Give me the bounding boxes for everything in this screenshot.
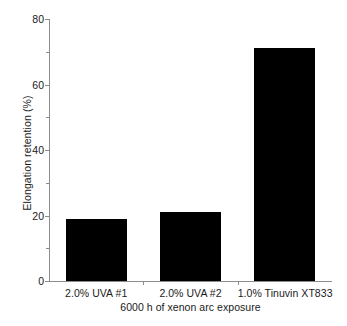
y-minor-tick-mark xyxy=(46,183,49,184)
y-tick-mark xyxy=(45,150,49,151)
bar-chart-figure: Elongation retention (%) 020406080 2.0% … xyxy=(0,0,347,326)
y-tick-label: 80 xyxy=(32,14,44,25)
x-tick-label: 1.0% Tinuvin XT833 xyxy=(238,287,332,300)
x-tick-mark xyxy=(143,281,144,285)
y-axis-line xyxy=(49,19,50,281)
y-minor-tick-mark xyxy=(46,117,49,118)
plot-area: 020406080 2.0% UVA #12.0% UVA #21.0% Tin… xyxy=(49,19,332,281)
y-tick-label: 60 xyxy=(32,79,44,90)
bar xyxy=(160,212,221,281)
y-tick-mark xyxy=(45,19,49,20)
x-tick-label: 2.0% UVA #2 xyxy=(143,287,237,300)
x-tick-mark xyxy=(238,281,239,285)
bar xyxy=(254,48,315,281)
y-minor-tick-mark xyxy=(46,52,49,53)
y-tick-label: 20 xyxy=(32,210,44,221)
x-tick-label: 2.0% UVA #1 xyxy=(49,287,143,300)
x-axis-title: 6000 h of xenon arc exposure xyxy=(49,301,332,314)
y-minor-tick-mark xyxy=(46,248,49,249)
y-tick-label: 40 xyxy=(32,145,44,156)
x-axis-line xyxy=(49,281,332,282)
y-tick-mark xyxy=(45,85,49,86)
y-tick-mark xyxy=(45,216,49,217)
bar xyxy=(66,219,127,281)
y-tick-label: 0 xyxy=(38,276,44,287)
y-tick-mark xyxy=(45,281,49,282)
